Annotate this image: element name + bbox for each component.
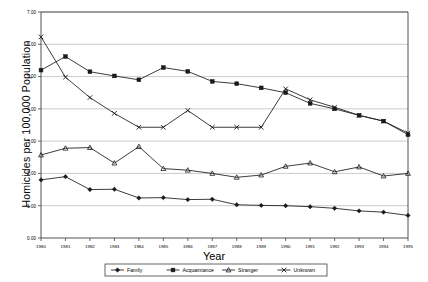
data-point (308, 101, 312, 105)
series-family (39, 174, 410, 217)
data-point (235, 82, 239, 86)
series-unknown (39, 35, 411, 136)
data-point (137, 78, 141, 82)
x-tick-label: 1986 (183, 244, 193, 249)
x-tick-label: 1989 (256, 244, 266, 249)
x-tick-label: 1983 (110, 244, 120, 249)
data-point (210, 197, 214, 201)
data-point (210, 80, 214, 84)
data-series-group (39, 35, 411, 218)
x-tick-label: 1993 (354, 244, 364, 249)
data-point (137, 196, 141, 200)
x-tick-label: 1988 (232, 244, 242, 249)
data-point (39, 178, 43, 182)
data-point (308, 204, 312, 208)
series-line (41, 37, 408, 133)
chart-legend: FamilyAcquaintanceStrangerUnknown (105, 264, 327, 276)
data-point (332, 206, 336, 210)
chart-container: Homicides per 100,000 Population Year 0.… (0, 0, 428, 282)
data-point (161, 195, 165, 199)
x-tick-label: 1980 (36, 244, 46, 249)
legend-item-acquaintance[interactable]: Acquaintance (167, 267, 215, 273)
x-tick-label: 1985 (158, 244, 168, 249)
data-point (63, 174, 67, 178)
x-tick-label: 1991 (305, 244, 315, 249)
x-tick-label: 1982 (85, 244, 95, 249)
legend-label: Acquaintance (183, 267, 215, 273)
data-point (63, 75, 68, 80)
series-acquaintance (39, 55, 410, 137)
data-point (186, 70, 190, 74)
data-point (186, 197, 190, 201)
data-point (235, 203, 239, 207)
data-point (283, 204, 287, 208)
series-line (41, 57, 408, 135)
data-point (64, 55, 68, 59)
series-line (41, 147, 408, 178)
series-stranger (39, 144, 411, 179)
x-axis-title: Year (0, 250, 428, 262)
y-axis-title: Homicides per 100,000 Population (20, 24, 32, 224)
data-point (113, 74, 117, 78)
x-tick-label: 1981 (61, 244, 71, 249)
x-tick-label: 1992 (330, 244, 340, 249)
data-point (381, 210, 385, 214)
data-point (112, 111, 117, 116)
gridlines-group (41, 12, 408, 206)
legend-marker-square-icon (171, 268, 175, 272)
y-tick-label: 0.00 (27, 236, 36, 241)
line-chart-plot: 0.001.002.003.004.005.006.007.00 1980198… (0, 0, 428, 282)
data-point (283, 87, 288, 92)
x-tick-label: 1995 (403, 244, 413, 249)
data-point (88, 187, 92, 191)
x-tick-label: 1990 (281, 244, 291, 249)
plot-frame (41, 12, 408, 238)
data-point (406, 213, 410, 217)
data-point (259, 86, 263, 90)
data-point (161, 66, 165, 70)
y-tick-label: 7.00 (27, 10, 36, 15)
data-point (259, 203, 263, 207)
legend-label: Stranger (238, 267, 258, 273)
legend-label: Unknown (294, 267, 316, 273)
series-line (41, 177, 408, 216)
data-point (357, 209, 361, 213)
data-point (112, 187, 116, 191)
data-point (88, 70, 92, 74)
data-point (39, 68, 43, 72)
x-axis-ticks: 1980198119821983198419851986198719881989… (36, 238, 413, 249)
x-tick-label: 1984 (134, 244, 144, 249)
legend-label: Family (127, 267, 143, 273)
x-tick-label: 1994 (379, 244, 389, 249)
x-tick-label: 1987 (207, 244, 217, 249)
data-point (88, 95, 93, 100)
